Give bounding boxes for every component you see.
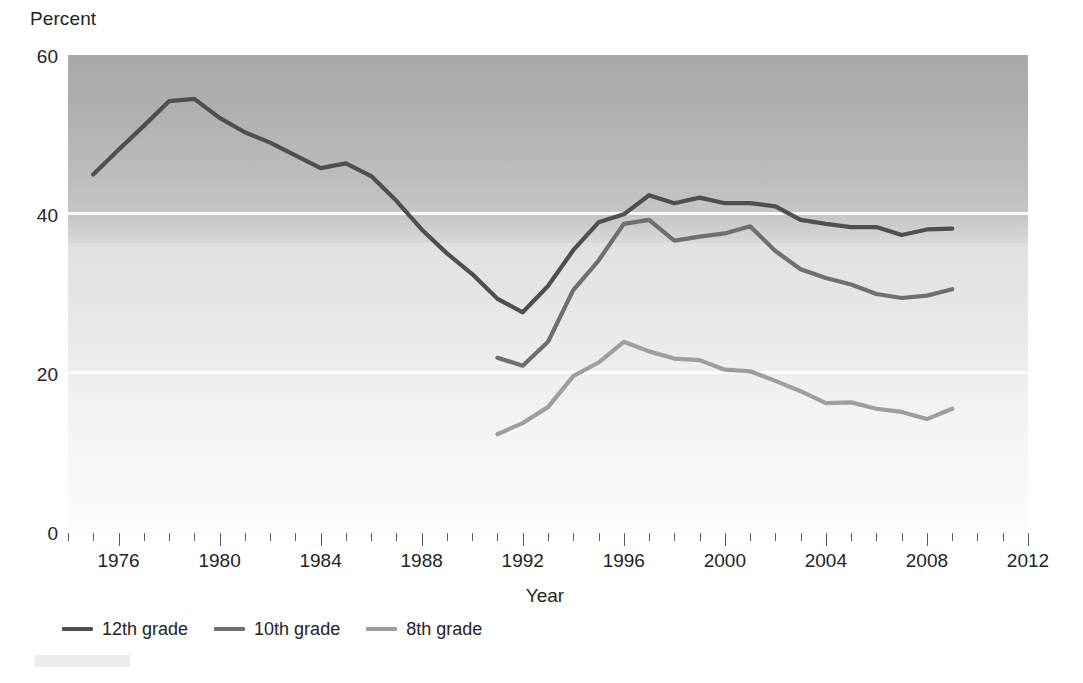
x-tick-label-2000: 2000 [685, 551, 765, 570]
y-tick-label-20: 20 [12, 365, 58, 384]
x-tick-1996 [624, 533, 625, 546]
x-tick-1988 [422, 533, 423, 546]
x-tick-1980 [220, 533, 221, 546]
x-tick-1999 [700, 533, 701, 541]
x-tick-1991 [497, 533, 498, 541]
x-tick-1979 [194, 533, 195, 541]
legend-item-12th-grade[interactable]: 12th grade [62, 620, 188, 638]
x-tick-1977 [144, 533, 145, 541]
x-tick-label-1996: 1996 [584, 551, 664, 570]
series-plot [68, 55, 1028, 533]
legend-item-8th-grade[interactable]: 8th grade [366, 620, 482, 638]
legend-label-12th-grade: 12th grade [102, 620, 188, 638]
series-line-10th-grade [497, 220, 952, 366]
y-axis-tick-labels: 60 40 20 0 [4, 0, 58, 683]
x-tick-label-1984: 1984 [281, 551, 361, 570]
scan-artifact [35, 655, 130, 667]
x-axis-title: Year [0, 585, 1083, 607]
x-tick-label-1992: 1992 [483, 551, 563, 570]
x-tick-2000 [725, 533, 726, 546]
x-tick-2011 [1003, 533, 1004, 541]
legend-label-8th-grade: 8th grade [406, 620, 482, 638]
x-axis-title-text: Year [526, 585, 564, 606]
chart-figure: Percent 60 40 20 0 197619801984198819921… [0, 0, 1083, 683]
legend-swatch-icon-8th-grade [366, 627, 397, 631]
x-tick-2004 [826, 533, 827, 546]
x-tick-2001 [750, 533, 751, 541]
x-tick-1997 [649, 533, 650, 541]
x-tick-2007 [902, 533, 903, 541]
x-tick-label-1988: 1988 [382, 551, 462, 570]
x-tick-label-2004: 2004 [786, 551, 866, 570]
series-line-8th-grade [497, 342, 952, 434]
x-tick-1992 [523, 533, 524, 546]
x-tick-2003 [801, 533, 802, 541]
chart-legend: 12th grade 10th grade 8th grade [62, 620, 482, 638]
x-tick-2009 [952, 533, 953, 541]
x-tick-1987 [396, 533, 397, 541]
x-tick-1982 [270, 533, 271, 541]
x-tick-label-1976: 1976 [79, 551, 159, 570]
x-tick-1989 [447, 533, 448, 541]
x-tick-label-2008: 2008 [887, 551, 967, 570]
x-tick-2005 [851, 533, 852, 541]
x-tick-1985 [346, 533, 347, 541]
x-tick-2006 [876, 533, 877, 541]
series-line-12th-grade [93, 99, 952, 313]
x-tick-1978 [169, 533, 170, 541]
x-tick-1994 [573, 533, 574, 541]
x-tick-1983 [295, 533, 296, 541]
x-tick-1984 [321, 533, 322, 546]
y-tick-label-40: 40 [12, 206, 58, 225]
x-tick-1986 [371, 533, 372, 541]
x-axis-tick-labels: 1976198019841988199219962000200420082012 [0, 551, 1083, 579]
x-tick-1976 [119, 533, 120, 546]
x-tick-1974 [68, 533, 69, 541]
x-tick-1993 [548, 533, 549, 541]
x-tick-label-1980: 1980 [180, 551, 260, 570]
legend-swatch-icon-10th-grade [214, 627, 245, 631]
x-tick-2002 [775, 533, 776, 541]
x-tick-2010 [977, 533, 978, 541]
legend-label-10th-grade: 10th grade [254, 620, 340, 638]
x-tick-1990 [472, 533, 473, 541]
plot-area [68, 55, 1028, 533]
legend-swatch-icon-12th-grade [62, 627, 93, 631]
x-tick-1981 [245, 533, 246, 541]
y-tick-label-0: 0 [12, 524, 58, 543]
x-tick-label-2012: 2012 [988, 551, 1068, 570]
legend-item-10th-grade[interactable]: 10th grade [214, 620, 340, 638]
x-tick-1998 [674, 533, 675, 541]
x-tick-2012 [1028, 533, 1029, 546]
x-tick-1975 [93, 533, 94, 541]
x-tick-2008 [927, 533, 928, 546]
x-axis-ticks [68, 533, 1028, 549]
x-tick-1995 [599, 533, 600, 541]
y-tick-label-60: 60 [12, 47, 58, 66]
